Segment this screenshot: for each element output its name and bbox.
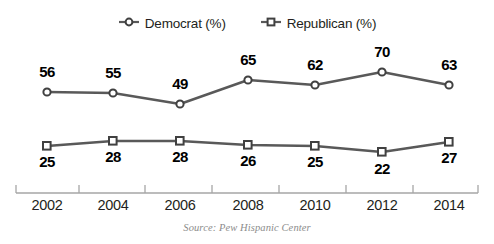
data-label: 56	[39, 63, 55, 80]
x-axis	[16, 185, 478, 193]
data-label: 25	[39, 153, 55, 170]
x-tick-label: 2014	[433, 197, 464, 213]
x-tick-label: 2006	[164, 197, 195, 213]
data-label: 28	[105, 148, 121, 165]
x-tick-label: 2010	[299, 197, 330, 213]
source-caption: Source: Pew Hispanic Center	[0, 222, 494, 233]
data-label: 55	[105, 64, 121, 81]
data-label: 49	[172, 75, 188, 92]
data-label: 28	[172, 148, 188, 165]
data-label: 65	[240, 51, 256, 68]
x-tick-label: 2012	[366, 197, 397, 213]
data-label: 62	[307, 56, 323, 73]
data-label: 22	[374, 160, 390, 177]
x-tick-label: 2002	[31, 197, 62, 213]
x-tick-label: 2004	[97, 197, 128, 213]
data-label: 63	[441, 56, 457, 73]
line-chart: Democrat (%) Republican (%)	[0, 0, 494, 244]
data-label: 26	[240, 152, 256, 169]
data-label: 70	[374, 43, 390, 60]
data-label: 27	[441, 149, 457, 166]
x-tick-label: 2008	[232, 197, 263, 213]
data-label: 25	[307, 153, 323, 170]
